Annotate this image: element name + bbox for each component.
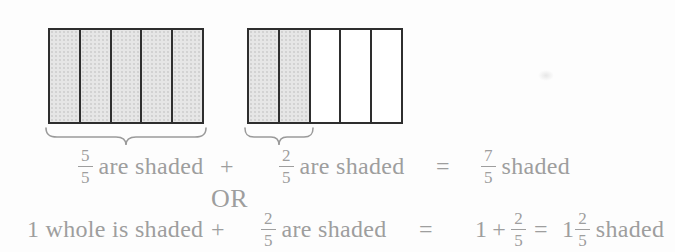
- shaded-cell: [50, 30, 81, 122]
- term-label: 1 whole is shaded: [27, 217, 203, 241]
- fraction-two-fifths: 2 5: [511, 210, 526, 249]
- scan-smudge: [538, 70, 554, 81]
- eq2-equals-sign-1: =: [419, 209, 433, 249]
- eq2-term1: 1 whole is shaded: [27, 209, 203, 249]
- fraction-denominator: 5: [78, 166, 93, 186]
- term-label: are shaded: [99, 154, 204, 178]
- fraction-numerator: 2: [511, 210, 526, 229]
- fraction-numerator: 7: [481, 147, 496, 166]
- equals-sign: =: [534, 217, 548, 241]
- eq1-equals-sign: =: [436, 146, 450, 186]
- term-label: are shaded: [300, 154, 405, 178]
- whole-number: 1: [475, 217, 487, 241]
- result-label: shaded: [502, 154, 570, 178]
- plus-sign: +: [492, 217, 506, 241]
- eq2-term2: 2 5 are shaded: [261, 209, 386, 249]
- unshaded-cell: [341, 30, 372, 122]
- fraction-denominator: 5: [511, 229, 526, 249]
- fraction-denominator: 5: [575, 229, 590, 249]
- eq2-plus-sign: +: [211, 209, 225, 249]
- fraction-denominator: 5: [481, 166, 496, 186]
- plus-sign: +: [211, 217, 225, 241]
- equals-sign: =: [436, 154, 450, 178]
- shaded-cell: [280, 30, 311, 122]
- eq1-result: 7 5 shaded: [481, 146, 570, 186]
- fraction-seven-fifths: 7 5: [481, 147, 496, 186]
- shaded-cell: [81, 30, 112, 122]
- brace-under-two-fifths: [243, 126, 315, 148]
- eq2-mixed-number-result: 1 2 5 shaded: [562, 209, 664, 249]
- shaded-cell: [112, 30, 143, 122]
- fraction-numerator: 2: [279, 147, 294, 166]
- plus-sign: +: [220, 154, 234, 178]
- fraction-denominator: 5: [279, 166, 294, 186]
- whole-number: 1: [562, 217, 574, 241]
- brace-under-five-fifths: [44, 126, 208, 148]
- eq1-term2: 2 5 are shaded: [279, 146, 404, 186]
- fraction-bar-two-fifths: [247, 28, 403, 124]
- fraction-numerator: 5: [78, 147, 93, 166]
- unshaded-cell: [311, 30, 342, 122]
- fraction-bar-five-fifths: [48, 28, 204, 124]
- fraction-numerator: 2: [261, 210, 276, 229]
- result-label: shaded: [596, 217, 664, 241]
- eq2-sum: 1 + 2 5: [475, 209, 526, 249]
- unshaded-cell: [372, 30, 401, 122]
- fraction-denominator: 5: [261, 229, 276, 249]
- fraction-five-fifths: 5 5: [78, 147, 93, 186]
- fraction-two-fifths: 2 5: [575, 210, 590, 249]
- eq1-term1: 5 5 are shaded: [78, 146, 203, 186]
- shaded-cell: [173, 30, 202, 122]
- fraction-diagram: 5 5 are shaded + 2 5 are shaded = 7 5 sh…: [0, 0, 675, 252]
- eq2-equals-sign-2: =: [534, 209, 548, 249]
- fraction-two-fifths: 2 5: [279, 147, 294, 186]
- term-label: are shaded: [282, 217, 387, 241]
- eq1-plus-sign: +: [220, 146, 234, 186]
- fraction-two-fifths: 2 5: [261, 210, 276, 249]
- fraction-numerator: 2: [575, 210, 590, 229]
- equals-sign: =: [419, 217, 433, 241]
- shaded-cell: [142, 30, 173, 122]
- shaded-cell: [249, 30, 280, 122]
